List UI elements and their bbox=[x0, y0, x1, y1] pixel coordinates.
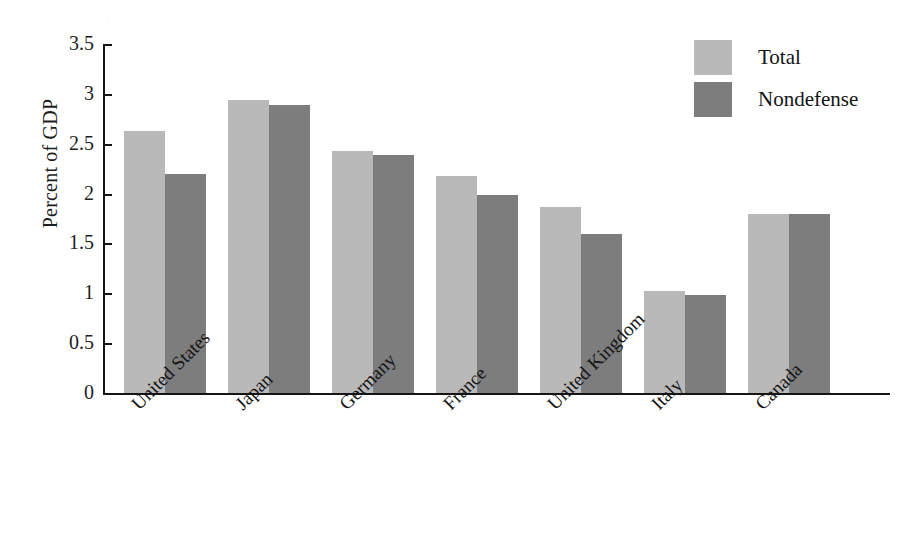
y-axis-tick-label: 3 bbox=[84, 82, 94, 104]
legend-item: Nondefense bbox=[694, 78, 894, 120]
bar-nondefense bbox=[477, 195, 518, 393]
legend-swatch bbox=[694, 82, 732, 117]
bar-nondefense bbox=[269, 105, 310, 393]
bar-group bbox=[228, 44, 310, 393]
y-axis-tick-label: 0 bbox=[84, 381, 94, 403]
bar-total bbox=[644, 291, 685, 393]
bar-total bbox=[228, 100, 269, 393]
y-axis-tick-label: 1 bbox=[84, 281, 94, 303]
chart-legend: TotalNondefense bbox=[694, 36, 894, 120]
y-axis-tick-mark bbox=[103, 144, 112, 146]
bar-group bbox=[332, 44, 414, 393]
y-axis-tick-label: 3.5 bbox=[69, 32, 94, 54]
y-axis-tick-mark bbox=[103, 243, 112, 245]
y-axis-tick-mark bbox=[103, 343, 112, 345]
y-axis-title: Percent of GDP bbox=[39, 54, 62, 274]
legend-label: Nondefense bbox=[758, 87, 858, 111]
y-axis-tick-mark bbox=[103, 44, 112, 46]
y-axis-line bbox=[103, 44, 105, 394]
bar-group bbox=[436, 44, 518, 393]
y-axis-tick-label: 1.5 bbox=[69, 231, 94, 253]
y-axis-tick-mark bbox=[103, 194, 112, 196]
bar-total bbox=[124, 131, 165, 393]
y-axis-tick-label: 0.5 bbox=[69, 331, 94, 353]
y-axis-tick-label: 2 bbox=[84, 182, 94, 204]
legend-item: Total bbox=[694, 36, 894, 78]
bar-total bbox=[436, 176, 477, 393]
bar-nondefense bbox=[685, 295, 726, 393]
y-axis-tick-label: 2.5 bbox=[69, 132, 94, 154]
y-axis-tick-mark bbox=[103, 293, 112, 295]
bar-total bbox=[332, 151, 373, 393]
bar-total bbox=[540, 207, 581, 393]
y-axis-tick-mark bbox=[103, 94, 112, 96]
bar-chart-figure: Percent of GDP 3.532.521.510.50 United S… bbox=[0, 0, 906, 536]
legend-swatch bbox=[694, 40, 732, 75]
y-axis-tick-mark bbox=[103, 393, 112, 395]
legend-label: Total bbox=[758, 45, 801, 69]
